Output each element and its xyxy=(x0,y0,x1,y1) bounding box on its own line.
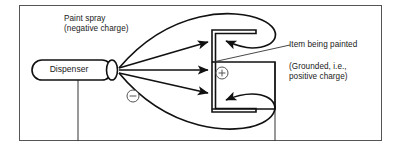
diagram-canvas: Paint spray (negative charge) Item being… xyxy=(0,0,402,155)
paint-spray-label-text: Paint spray (negative charge) xyxy=(64,14,129,35)
dispenser-label: Dispenser xyxy=(38,64,100,74)
negative-charge-symbol xyxy=(127,90,139,102)
item-being-painted-label: Item being painted xyxy=(289,40,357,50)
grounded-note-label: (Grounded, i.e., positive charge) xyxy=(289,62,348,83)
spray-wrap-arrow-top xyxy=(119,14,275,68)
spray-wrap-arrow-bottom xyxy=(119,73,275,129)
dispenser-nozzle xyxy=(107,60,118,80)
positive-charge-symbol xyxy=(216,67,228,79)
